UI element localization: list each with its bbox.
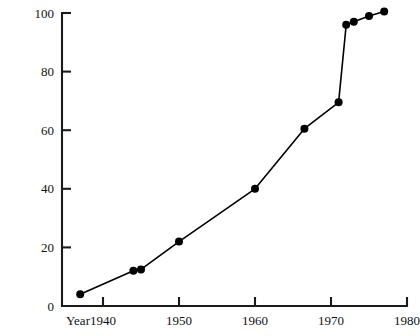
x-tick-label-1980: 1980 (394, 313, 420, 328)
y-tick-label-40: 40 (41, 181, 54, 196)
data-point (137, 265, 145, 273)
x-axis-title: Year (66, 313, 91, 328)
x-tick-label-1960: 1960 (242, 313, 268, 328)
x-axis-ticks (103, 297, 407, 306)
x-tick-label-1950: 1950 (166, 313, 192, 328)
data-point (175, 238, 183, 246)
data-point (350, 18, 358, 26)
y-tick-label-60: 60 (41, 123, 54, 138)
x-axis: 19401950196019701980 (62, 297, 420, 328)
series-line (80, 12, 384, 295)
y-axis: 020406080100 (35, 6, 72, 314)
chart-container: 020406080100 19401950196019701980 Year (0, 0, 420, 336)
data-point (335, 98, 343, 106)
data-point (300, 125, 308, 133)
y-axis-ticks (62, 13, 71, 247)
series-markers (76, 8, 388, 299)
data-point (365, 12, 373, 20)
data-point (380, 8, 388, 16)
data-point (342, 21, 350, 29)
data-point (76, 290, 84, 298)
y-tick-label-100: 100 (35, 6, 55, 21)
y-tick-label-20: 20 (41, 240, 54, 255)
data-series-group (76, 8, 388, 299)
line-chart: 020406080100 19401950196019701980 Year (0, 0, 420, 336)
y-tick-label-0: 0 (48, 299, 55, 314)
y-tick-label-80: 80 (41, 64, 54, 79)
data-point (129, 267, 137, 275)
x-tick-label-1940: 1940 (90, 313, 116, 328)
y-axis-tick-labels: 020406080100 (35, 6, 55, 314)
x-tick-label-1970: 1970 (318, 313, 344, 328)
x-axis-tick-labels: 19401950196019701980 (90, 313, 420, 328)
data-point (251, 185, 259, 193)
